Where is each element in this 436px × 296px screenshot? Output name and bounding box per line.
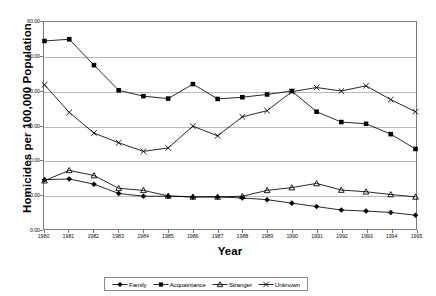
data-point-marker: [413, 147, 418, 152]
legend-item-stranger[interactable]: Stranger: [212, 280, 252, 289]
series-line: [44, 179, 415, 215]
x-axis-tick-mark: [168, 230, 169, 233]
x-axis-tick-mark: [68, 230, 69, 233]
y-axis-tick-label: 40.00: [6, 88, 40, 94]
series-line: [44, 170, 415, 197]
data-point-marker: [66, 110, 72, 116]
data-point-marker: [91, 181, 97, 187]
series-line: [44, 85, 415, 152]
data-point-marker: [264, 197, 270, 203]
homicides-line-chart: Homicides per 100,000 Population 0.0010.…: [0, 0, 436, 296]
data-point-marker: [166, 96, 171, 101]
x-axis-tick-mark: [218, 230, 219, 233]
data-point-marker: [116, 88, 121, 93]
x-axis-tick-mark: [342, 230, 343, 233]
x-axis-tick-mark: [193, 230, 194, 233]
x-axis-tick-mark: [267, 230, 268, 233]
data-point-marker: [240, 95, 245, 100]
data-point-marker: [363, 208, 369, 214]
data-point-marker: [264, 108, 270, 114]
data-point-marker: [314, 109, 319, 114]
y-axis-tick-label: 50.00: [6, 53, 40, 59]
legend-label: Acquaintance: [170, 281, 206, 288]
data-point-marker: [141, 193, 147, 199]
x-axis-tick-mark: [367, 230, 368, 233]
y-axis-tick-label: 20.00: [6, 157, 40, 163]
y-axis-title: Homicides per 100,000 Population: [21, 3, 33, 233]
x-axis-tick-mark: [118, 230, 119, 233]
x-axis-tick-label: 1995: [402, 233, 432, 240]
x-axis-tick-mark: [93, 230, 94, 233]
data-point-marker: [289, 200, 295, 206]
x-axis-tick-mark: [242, 230, 243, 233]
data-point-marker: [339, 207, 345, 213]
data-point-marker: [191, 82, 196, 87]
series-stranger: [42, 167, 419, 199]
legend-item-acquaintance[interactable]: Acquaintance: [153, 280, 206, 289]
y-axis-tick-label: 60.00: [6, 18, 40, 24]
data-point-marker: [265, 92, 270, 97]
cross-marker-icon: [258, 280, 274, 289]
diamond-marker-icon: [112, 280, 128, 289]
data-point-marker: [42, 39, 47, 44]
x-axis-tick-mark: [317, 230, 318, 233]
data-point-marker: [215, 133, 221, 139]
triangle-marker-icon: [212, 280, 228, 289]
data-point-marker: [339, 120, 344, 125]
x-axis-tick-mark: [392, 230, 393, 233]
series-family: [42, 176, 419, 218]
legend-item-unknown[interactable]: Unknown: [258, 280, 300, 289]
chart-legend: FamilyAcquaintanceStrangerUnknown: [104, 277, 308, 291]
data-point-marker: [92, 63, 97, 68]
series-line: [44, 39, 415, 149]
data-point-marker: [215, 97, 220, 102]
x-axis-tick-mark: [292, 230, 293, 233]
x-axis-tick-mark: [143, 230, 144, 233]
data-point-marker: [413, 109, 419, 115]
x-axis-tick-mark: [417, 230, 418, 233]
data-point-marker: [116, 140, 122, 146]
data-point-marker: [141, 94, 146, 99]
legend-label: Stranger: [229, 281, 252, 288]
data-point-marker: [91, 130, 97, 136]
data-point-marker: [413, 212, 419, 218]
series-unknown: [42, 82, 419, 154]
data-point-marker: [67, 37, 72, 42]
data-point-marker: [66, 176, 72, 182]
legend-item-family[interactable]: Family: [112, 280, 147, 289]
x-axis-title: Year: [43, 245, 417, 257]
data-point-marker: [190, 123, 196, 129]
legend-label: Family: [129, 281, 147, 288]
data-point-marker: [314, 204, 320, 210]
data-point-marker: [116, 191, 122, 197]
data-point-marker: [388, 132, 393, 137]
data-point-marker: [388, 97, 394, 103]
series-layer: [44, 22, 416, 229]
x-axis-tick-mark: [44, 230, 45, 233]
plot-area: [43, 21, 417, 230]
y-axis-tick-label: 30.00: [6, 123, 40, 129]
data-point-marker: [240, 114, 246, 120]
y-axis-tick-label: 10.00: [6, 192, 40, 198]
square-marker-icon: [153, 280, 169, 289]
series-acquaintance: [42, 37, 418, 151]
data-point-marker: [388, 210, 394, 216]
data-point-marker: [42, 82, 48, 88]
data-point-marker: [364, 121, 369, 126]
legend-label: Unknown: [275, 281, 300, 288]
